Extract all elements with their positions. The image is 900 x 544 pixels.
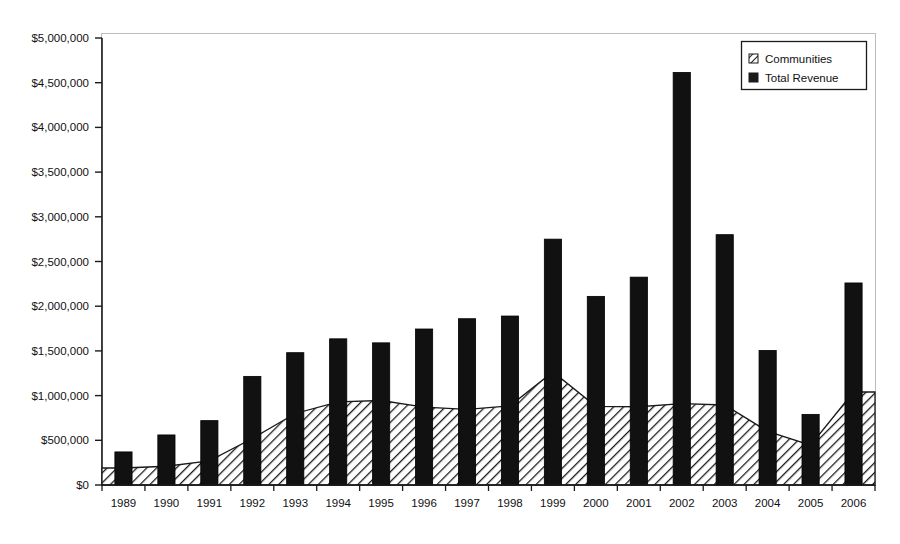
x-tick-label-1989: 1989 <box>111 497 137 509</box>
legend-label-communities: Communities <box>765 53 832 65</box>
bar-1989 <box>115 452 132 485</box>
y-tick-label: $3,500,000 <box>31 166 89 178</box>
legend[interactable]: Communities Total Revenue <box>742 42 867 90</box>
x-tick-label-2003: 2003 <box>712 497 738 509</box>
y-axis: $5,000,000 $4,500,000 $4,000,000 $3,500,… <box>31 32 102 491</box>
bar-1990 <box>158 435 175 485</box>
x-tick-label-1996: 1996 <box>411 497 437 509</box>
revenue-communities-chart: $5,000,000 $4,500,000 $4,000,000 $3,500,… <box>0 0 900 544</box>
x-tick-label-1998: 1998 <box>497 497 523 509</box>
bar-2003 <box>716 235 733 485</box>
x-tick-label-1992: 1992 <box>240 497 266 509</box>
y-tick-label: $2,500,000 <box>31 256 89 268</box>
x-tick-label-1997: 1997 <box>454 497 480 509</box>
y-tick-label: $4,000,000 <box>31 121 89 133</box>
x-tick-label-2002: 2002 <box>669 497 695 509</box>
y-tick-group <box>95 38 102 485</box>
legend-swatch-communities <box>749 54 758 63</box>
legend-label-total-revenue: Total Revenue <box>765 72 839 84</box>
bar-2000 <box>587 296 604 485</box>
x-axis: 1989199019911992199319941995199619971998… <box>102 485 875 509</box>
x-tick-label-1990: 1990 <box>154 497 180 509</box>
bar-1997 <box>458 319 475 485</box>
y-tick-label: $1,000,000 <box>31 390 89 402</box>
x-tick-label-2001: 2001 <box>626 497 652 509</box>
bar-1998 <box>501 316 518 485</box>
x-tick-label-2005: 2005 <box>798 497 824 509</box>
y-tick-label: $5,000,000 <box>31 32 89 44</box>
legend-swatch-total-revenue <box>749 73 758 82</box>
x-tick-label-2006: 2006 <box>841 497 867 509</box>
bar-2006 <box>845 283 862 485</box>
y-tick-label: $4,500,000 <box>31 77 89 89</box>
bar-1994 <box>330 339 347 485</box>
x-tick-label-1991: 1991 <box>197 497 223 509</box>
bar-1991 <box>201 421 218 485</box>
x-tick-label-2000: 2000 <box>583 497 609 509</box>
y-tick-label: $3,000,000 <box>31 211 89 223</box>
x-tick-label-1994: 1994 <box>325 497 351 509</box>
chart-container: $5,000,000 $4,500,000 $4,000,000 $3,500,… <box>0 0 900 544</box>
x-tick-label-2004: 2004 <box>755 497 781 509</box>
bar-1999 <box>544 239 561 485</box>
x-tick-label-1999: 1999 <box>540 497 566 509</box>
bar-1993 <box>287 353 304 485</box>
bar-1995 <box>373 343 390 485</box>
bar-2005 <box>802 414 819 485</box>
bar-2002 <box>673 72 690 485</box>
bar-2004 <box>759 350 776 485</box>
y-tick-label: $2,000,000 <box>31 300 89 312</box>
x-tick-label-1995: 1995 <box>368 497 394 509</box>
y-tick-label: $1,500,000 <box>31 345 89 357</box>
bar-1992 <box>244 376 261 485</box>
bar-2001 <box>630 277 647 485</box>
y-tick-label: $0 <box>76 479 89 491</box>
x-tick-label-1993: 1993 <box>282 497 308 509</box>
bar-1996 <box>415 329 432 485</box>
y-tick-label: $500,000 <box>41 434 89 446</box>
x-tick-label-group: 1989199019911992199319941995199619971998… <box>111 497 867 509</box>
